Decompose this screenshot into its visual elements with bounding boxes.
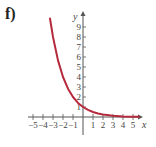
y-axis-arrow-icon: [81, 11, 86, 16]
y-tick-label: 8: [77, 32, 82, 42]
y-tick-label: 4: [77, 72, 82, 82]
data-curve: [50, 19, 139, 117]
x-tick-label: 3: [111, 120, 116, 130]
x-tick-label: 4: [121, 120, 126, 130]
y-tick-label: 3: [77, 82, 82, 92]
x-tick-label: 5: [131, 120, 136, 130]
exponential-decay-chart: −5−4−3−2−112345123456789xy: [0, 0, 156, 147]
y-tick-label: 5: [77, 62, 82, 72]
y-axis-label: y: [72, 11, 78, 22]
x-tick-label: −2: [58, 120, 68, 130]
x-tick-label: −3: [48, 120, 58, 130]
x-tick-label: 1: [91, 120, 96, 130]
y-tick-label: 7: [77, 42, 82, 52]
x-tick-label: −1: [68, 120, 78, 130]
x-tick-label: −5: [28, 120, 38, 130]
y-tick-label: 9: [77, 22, 82, 32]
x-axis-label: x: [141, 119, 147, 130]
x-tick-label: −4: [38, 120, 48, 130]
y-tick-label: 6: [77, 52, 82, 62]
x-tick-label: 2: [101, 120, 106, 130]
